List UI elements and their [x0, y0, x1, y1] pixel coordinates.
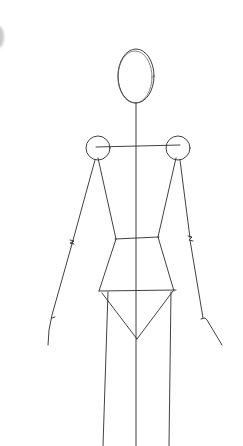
croquis-drawing [0, 0, 243, 446]
right-arm [180, 160, 222, 345]
waist-line [115, 237, 159, 239]
right-shoulder-joint [166, 136, 190, 160]
shoulder-line [96, 145, 180, 147]
left-shoulder-joint [86, 136, 110, 160]
head-oval [118, 49, 154, 103]
torso-sides [98, 158, 176, 291]
left-arm [48, 160, 95, 345]
sketch-canvas [0, 0, 243, 446]
crotch-triangle [102, 291, 173, 339]
hip-line [99, 290, 176, 291]
legs [103, 292, 171, 446]
